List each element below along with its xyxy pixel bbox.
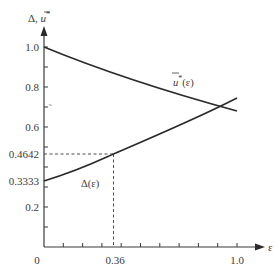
y-axis — [41, 26, 48, 247]
y-tick-label-0.6: 0.6 — [25, 121, 39, 133]
x-axis-arrow-icon — [255, 244, 265, 251]
y-axis-arrow-icon — [41, 26, 48, 36]
y-tick-label-0.8: 0.8 — [25, 81, 39, 93]
x-axis-label: ε — [268, 241, 273, 253]
u-star-curve-label: u*(ε) — [173, 74, 194, 89]
delta-curve-label: Δ(ε) — [81, 178, 100, 190]
x-tick-label-1.0: 1.0 — [230, 254, 244, 266]
x-tick-label-0.36: 0.36 — [105, 254, 125, 266]
origin-label: 0 — [34, 254, 40, 266]
y-tick-label-0.4642: 0.4642 — [9, 148, 39, 160]
x-axis — [44, 244, 265, 251]
y-tick-label-0.3333: 0.3333 — [9, 175, 40, 187]
stray-mark: ˜ — [49, 103, 52, 112]
guide-lines — [44, 154, 114, 247]
chart: 1.0 0.8 0.6 0.4642 0.3333 0.2 ˜ 0 0.36 1… — [0, 0, 275, 270]
u-star-curve — [44, 47, 237, 111]
y-tick-label-0.2: 0.2 — [25, 201, 39, 213]
delta-curve — [44, 98, 237, 181]
y-tick-label-1.0: 1.0 — [25, 41, 39, 53]
